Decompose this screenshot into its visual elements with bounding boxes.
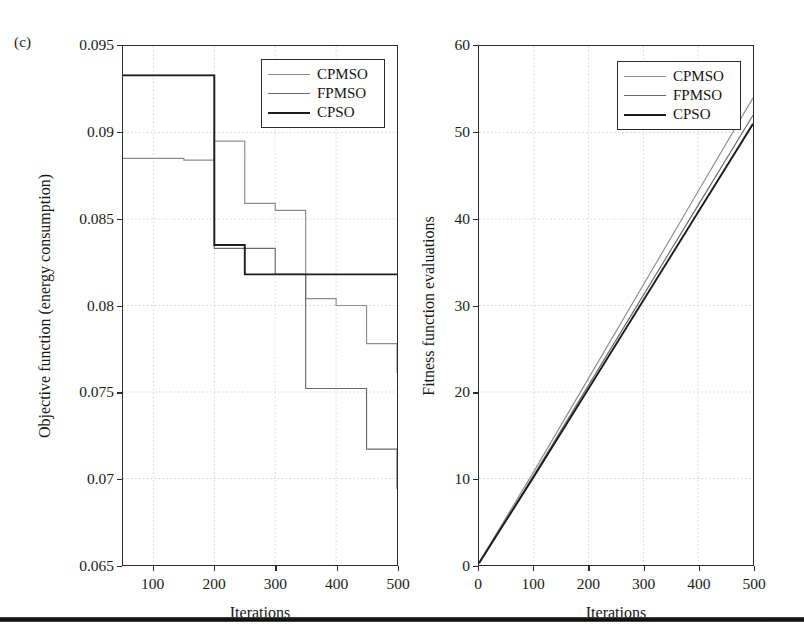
x-tick-label: 400 — [325, 575, 348, 593]
y-tick-mark — [117, 392, 122, 393]
y-tick-mark — [117, 132, 122, 133]
legend-item-cpmso: CPMSO — [624, 67, 732, 86]
legend-label-fpmso: FPMSO — [317, 86, 366, 101]
legend-item-fpmso: FPMSO — [268, 84, 376, 103]
y-tick-label: 60 — [455, 36, 471, 54]
legend-item-cpso: CPSO — [268, 103, 376, 122]
y-tick-label: 0.085 — [79, 210, 114, 228]
x-tick-label: 100 — [141, 575, 164, 593]
y-tick-label: 0.095 — [79, 36, 114, 54]
y-tick-label: 40 — [455, 210, 471, 228]
legend-item-cpmso: CPMSO — [268, 65, 376, 84]
x-tick-mark — [533, 566, 534, 571]
legend-label-cpso: CPSO — [317, 105, 355, 120]
y-axis-title-right: Fitness function evaluations — [420, 216, 438, 396]
y-tick-mark — [117, 479, 122, 480]
legend-label-cpmso: CPMSO — [317, 67, 368, 82]
legend-line-fpmso-icon — [624, 95, 666, 96]
legend-label-cpmso: CPMSO — [673, 69, 724, 84]
y-tick-mark — [473, 306, 478, 307]
y-tick-mark — [473, 219, 478, 220]
x-tick-mark — [275, 566, 276, 571]
chart-panel-fitness-evaluations: 0102030405060 0100200300400500 Fitness f… — [402, 0, 804, 643]
y-tick-label: 50 — [455, 123, 471, 141]
y-tick-label: 0 — [462, 557, 470, 575]
x-tick-mark — [699, 566, 700, 571]
y-tick-label: 20 — [455, 383, 471, 401]
x-tick-label: 500 — [742, 575, 765, 593]
y-tick-label: 0.065 — [79, 557, 114, 575]
y-tick-mark — [473, 45, 478, 46]
x-tick-mark — [478, 566, 479, 571]
x-tick-mark — [644, 566, 645, 571]
legend-line-cpmso-icon — [624, 76, 666, 77]
bottom-horizontal-rule — [0, 617, 804, 622]
y-tick-label: 0.07 — [87, 470, 114, 488]
figure-page: (c) 0.0650.070.0750.080.0850.090.095 100… — [0, 0, 804, 643]
legend-line-cpso-icon — [624, 114, 666, 116]
legend-left: CPMSO FPMSO CPSO — [261, 59, 385, 128]
y-tick-mark — [473, 479, 478, 480]
y-tick-mark — [473, 392, 478, 393]
y-tick-label: 0.075 — [79, 383, 114, 401]
legend-label-cpso: CPSO — [673, 107, 711, 122]
x-tick-label: 200 — [577, 575, 600, 593]
y-tick-mark — [117, 306, 122, 307]
x-tick-mark — [214, 566, 215, 571]
x-tick-label: 200 — [202, 575, 225, 593]
x-tick-mark — [754, 566, 755, 571]
x-tick-mark — [153, 566, 154, 571]
x-tick-label: 300 — [632, 575, 655, 593]
x-tick-label: 100 — [522, 575, 545, 593]
chart-panel-objective-function: (c) 0.0650.070.0750.080.0850.090.095 100… — [0, 0, 402, 643]
y-tick-label: 30 — [455, 297, 471, 315]
x-tick-mark — [337, 566, 338, 571]
y-tick-mark — [117, 219, 122, 220]
x-tick-mark — [588, 566, 589, 571]
x-tick-mark — [398, 566, 399, 571]
legend-item-cpso: CPSO — [624, 105, 732, 124]
x-tick-label: 400 — [687, 575, 710, 593]
y-tick-label: 0.09 — [87, 123, 114, 141]
legend-item-fpmso: FPMSO — [624, 86, 732, 105]
subfigure-label-c: (c) — [14, 34, 31, 51]
y-tick-mark — [117, 45, 122, 46]
y-axis-title-left: Objective function (energy consumption) — [36, 173, 54, 437]
legend-line-fpmso-icon — [268, 93, 310, 94]
x-tick-label: 300 — [264, 575, 287, 593]
y-tick-label: 0.08 — [87, 297, 114, 315]
legend-label-fpmso: FPMSO — [673, 88, 722, 103]
y-tick-mark — [117, 566, 122, 567]
y-tick-label: 10 — [455, 470, 471, 488]
y-tick-mark — [473, 132, 478, 133]
legend-right: CPMSO FPMSO CPSO — [617, 61, 741, 130]
legend-line-cpmso-icon — [268, 74, 310, 75]
legend-line-cpso-icon — [268, 112, 310, 114]
x-tick-label: 0 — [474, 575, 482, 593]
